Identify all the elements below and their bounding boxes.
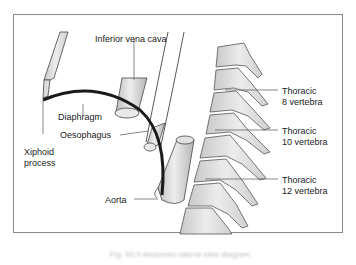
label-aorta: Aorta bbox=[105, 195, 127, 205]
diaphragm-curve bbox=[43, 91, 163, 195]
label-xiphoid-line2: process bbox=[24, 158, 56, 168]
oesophagus-leader bbox=[120, 131, 148, 135]
label-diaphragm: Diaphragm bbox=[58, 112, 102, 122]
label-t10-line2: 10 vertebra bbox=[282, 137, 328, 147]
label-t8-line1: Thoracic bbox=[282, 86, 317, 96]
anatomy-figure: Inferior vena cava Diaphragm Oesophagus … bbox=[0, 0, 356, 265]
label-inferior-vena-cava: Inferior vena cava bbox=[95, 34, 167, 44]
figure-caption: Fig. 00.0 Abdomen lateral view diagram bbox=[60, 250, 300, 260]
label-xiphoid-line1: Xiphoid bbox=[24, 147, 54, 157]
label-t8-line2: 8 vertebra bbox=[282, 97, 323, 107]
label-t10-line1: Thoracic bbox=[282, 126, 317, 136]
label-t12-line1: Thoracic bbox=[282, 175, 317, 185]
label-t12-line2: 12 vertebra bbox=[282, 186, 328, 196]
xiphoid-process-shape bbox=[43, 32, 68, 98]
label-oesophagus: Oesophagus bbox=[60, 130, 111, 140]
